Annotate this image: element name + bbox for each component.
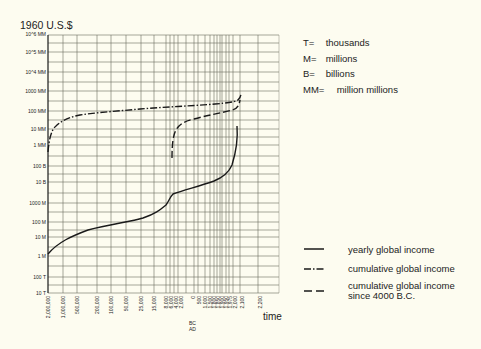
dashed-line-icon bbox=[304, 286, 326, 296]
x-tick-label: 15,000 bbox=[151, 296, 157, 311]
solid-line-icon bbox=[304, 244, 326, 254]
y-tick-label: 10^4 MM bbox=[26, 69, 46, 75]
x-tick-label: 200,000 bbox=[94, 296, 100, 314]
legend-label: yearly global income bbox=[348, 244, 435, 255]
abbr-key: T= bbox=[303, 37, 323, 48]
legend-label: cumulative global incomesince 4000 B.C. bbox=[348, 281, 455, 301]
x-axis-label: time bbox=[263, 311, 282, 322]
legend-item-cumulative: cumulative global income bbox=[304, 263, 455, 274]
x-tick-label: 100,000 bbox=[108, 296, 114, 314]
y-tick-label: 1 M bbox=[38, 253, 46, 259]
era-ad: AD bbox=[189, 326, 196, 332]
legend-item-cumulative-4000bc: cumulative global incomesince 4000 B.C. bbox=[304, 281, 455, 301]
legend-label-line2: since 4000 B.C. bbox=[348, 290, 415, 301]
y-tick-label: 1 MM bbox=[34, 142, 47, 148]
y-tick-label: 100 B bbox=[33, 163, 46, 169]
abbr-key: MM= bbox=[303, 84, 334, 95]
x-tick-label: 1,000,000 bbox=[60, 296, 66, 318]
y-tick-label: 1000 MM bbox=[25, 88, 46, 94]
abbr-millions: M= millions bbox=[303, 53, 357, 64]
x-tick-label: 2,000 bbox=[232, 296, 238, 309]
dash-dot-line-icon bbox=[304, 263, 326, 273]
abbr-million-millions: MM= million millions bbox=[303, 84, 398, 95]
x-tick-label: 2,000,000 bbox=[45, 296, 51, 318]
abbr-billions: B= billions bbox=[303, 68, 355, 79]
y-tick-label: 10 B bbox=[36, 179, 46, 185]
y-tick-label: 10^5 MM bbox=[26, 49, 46, 55]
abbr-value: billions bbox=[326, 68, 355, 79]
grid bbox=[48, 35, 279, 293]
era-marker: BC AD bbox=[189, 320, 196, 332]
y-tick-label: 10 M bbox=[35, 234, 46, 240]
x-tick-label: 2,000 bbox=[178, 296, 184, 309]
y-tick-label: 100 T bbox=[33, 274, 46, 280]
x-tick-label: 2,100 bbox=[239, 296, 245, 309]
abbr-value: million millions bbox=[337, 84, 398, 95]
y-tick-label: 10 MM bbox=[31, 126, 46, 132]
legend-label: cumulative global income bbox=[348, 263, 455, 274]
abbr-key: B= bbox=[303, 68, 323, 79]
y-tick-label: 100 MM bbox=[28, 108, 46, 114]
abbr-value: millions bbox=[326, 53, 358, 64]
y-tick-label: 100 M bbox=[32, 219, 46, 225]
y-tick-label: 1000 M bbox=[29, 200, 46, 206]
abbr-thousands: T= thousands bbox=[303, 37, 369, 48]
y-tick-label: 10^6 MM bbox=[26, 31, 46, 37]
x-tick-label: 25,000 bbox=[138, 296, 144, 311]
abbr-value: thousands bbox=[326, 37, 370, 48]
x-tick-label: 500,000 bbox=[74, 296, 80, 314]
x-tick-label: 50,000 bbox=[123, 296, 129, 311]
abbr-key: M= bbox=[303, 53, 323, 64]
x-tick-label: 2,200 bbox=[257, 296, 263, 309]
legend-item-yearly: yearly global income bbox=[304, 244, 435, 255]
